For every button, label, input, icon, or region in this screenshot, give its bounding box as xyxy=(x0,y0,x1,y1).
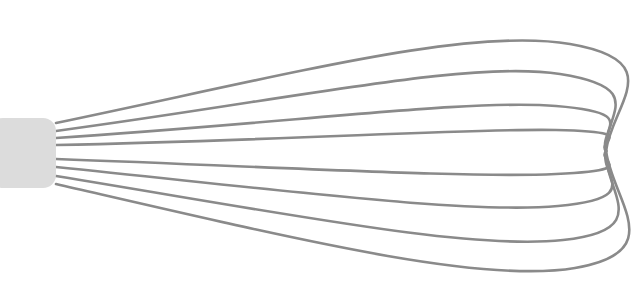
whisk-illustration xyxy=(0,0,642,303)
whisk-illustration-canvas xyxy=(0,0,642,303)
wire-loop-1 xyxy=(56,40,628,151)
wire-loop-8 xyxy=(56,151,629,271)
wire-loop-6 xyxy=(56,151,612,208)
wire-loop-2 xyxy=(56,71,616,151)
whisk-handle xyxy=(0,118,56,188)
wire-loop-5 xyxy=(56,151,610,175)
whisk-wire-group xyxy=(56,40,629,271)
